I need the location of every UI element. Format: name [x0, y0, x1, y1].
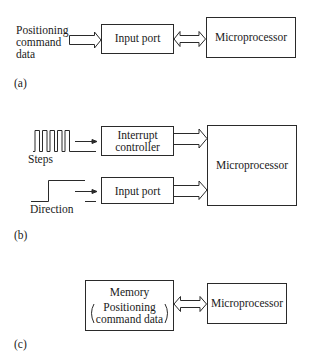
microprocessor-label-a: Microprocessor	[206, 31, 296, 44]
caption-c: (c)	[14, 338, 27, 351]
steps-label: Steps	[28, 153, 53, 166]
arrow-head-icon	[92, 140, 97, 144]
input-port-label-b: Input port	[101, 185, 174, 198]
input-label-line-1: Positioning	[16, 24, 68, 37]
memory-contents-line-1: Positioning	[85, 301, 174, 314]
direction-label: Direction	[30, 203, 73, 216]
interrupt-controller-label-1: Interrupt	[101, 129, 174, 142]
caption-a: (a)	[14, 77, 27, 90]
caption-b: (b)	[14, 229, 27, 242]
input-label-line-2: command	[16, 36, 61, 49]
microprocessor-label-c: Microprocessor	[207, 297, 287, 310]
interrupt-controller-label-2: controller	[101, 141, 174, 154]
hollow-arrow-icon	[174, 181, 208, 200]
input-label-line-3: data	[16, 48, 35, 61]
hollow-arrow-icon	[174, 129, 208, 148]
double-arrow-icon	[174, 32, 206, 47]
memory-title: Memory	[85, 286, 174, 299]
input-port-label-a: Input port	[101, 32, 174, 45]
microprocessor-label-b: Microprocessor	[207, 159, 297, 172]
double-arrow-icon	[174, 297, 207, 312]
arrow-head-icon	[92, 190, 97, 194]
hollow-arrow-icon	[70, 32, 102, 48]
memory-contents-line-2: command data	[85, 313, 174, 326]
